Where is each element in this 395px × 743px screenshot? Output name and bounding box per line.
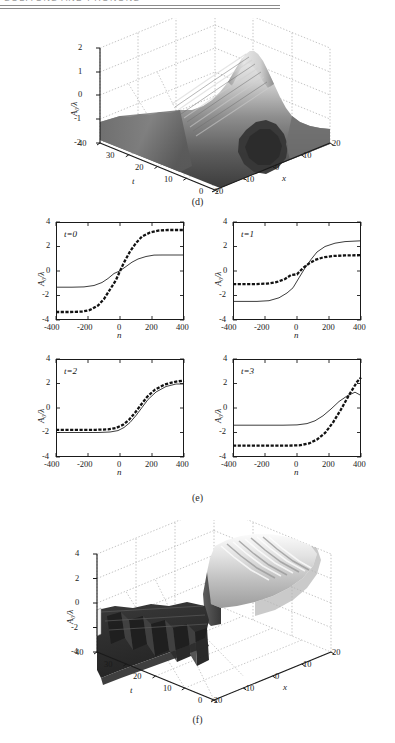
subplot-e-t1-thin-curve xyxy=(233,241,361,302)
subplot-e-t0-ytick-0: 0 xyxy=(46,265,50,275)
subplot-e-t0-xtick-m200: -200 xyxy=(77,322,93,332)
subplot-e-t3-ytick-m2: -2 xyxy=(219,426,226,436)
subplot-e-t2-ytick-m2: -2 xyxy=(42,426,49,436)
subplot-e-t2-ytick-2: 2 xyxy=(46,377,50,387)
subplot-e-t0-curves xyxy=(28,218,188,338)
panel-d-xtick-m10: -10 xyxy=(243,174,254,184)
subplot-e-t1-ytick-0: 0 xyxy=(223,265,227,275)
subplot-e-t2-ytick-0: 0 xyxy=(46,402,50,412)
panel-d-ttick-20: 20 xyxy=(135,162,144,172)
running-head: SOLITONS AND PHONONS xyxy=(0,0,395,9)
panel-f-ttick-20: 20 xyxy=(133,671,142,681)
subplot-e-t3-ylabel: A₀/λ xyxy=(213,409,223,423)
subplot-e-t3-xtick-m400: -400 xyxy=(221,459,237,469)
subplot-e-t0-xtick-m400: -400 xyxy=(44,322,60,332)
panel-d-z-axis-label: A₀/λ xyxy=(69,102,79,116)
panel-f-ttick-30: 30 xyxy=(104,659,113,669)
panel-d-xtick-0: 0 xyxy=(275,162,279,172)
subplot-e-t3: t=3 4 2 0 -2 -4 A₀/λ -400 -200 0 200 400… xyxy=(205,355,365,475)
subplot-e-t2: t=2 4 2 0 -2 -4 A₀/λ -400 -200 0 200 400… xyxy=(28,355,188,475)
panel-d-xtick-m20: -20 xyxy=(212,186,223,196)
subplot-e-t2-xlabel: n xyxy=(117,467,122,477)
subplot-e-t0-label: t=0 xyxy=(64,229,77,239)
subplot-e-t1-xlabel: n xyxy=(294,330,299,340)
panel-f-xtick-10: 10 xyxy=(303,659,312,669)
subplot-e-t3-ytick-0: 0 xyxy=(223,402,227,412)
subplot-e-t1-ytick-m2: -2 xyxy=(219,289,226,299)
subplot-e-t0-ylabel: A₀/λ xyxy=(36,272,46,286)
subplot-e-t3-thick-curve xyxy=(233,378,361,446)
subplot-e-t0-ytick-m2: -2 xyxy=(42,289,49,299)
subplot-e-t0-xlabel: n xyxy=(117,330,122,340)
panel-d-ztick-1: 1 xyxy=(78,66,82,76)
panel-d-z-ticks xyxy=(96,48,100,143)
subplot-e-t1-ylabel: A₀/λ xyxy=(213,272,223,286)
panel-d-t-axis-label: t xyxy=(132,176,135,186)
panel-f-ttick-40: 40 xyxy=(75,647,84,657)
subplot-e-t2-xtick-400: 400 xyxy=(176,459,189,469)
subplot-e-t3-ytick-2: 2 xyxy=(223,377,227,387)
panel-f-surface xyxy=(55,520,345,715)
panel-f-xtick-m10: -10 xyxy=(243,683,254,693)
panel-e-caption: (e) xyxy=(0,492,395,503)
panel-f-z-axis-label: A₀/λ xyxy=(65,610,75,624)
subplot-e-t2-thick-curve xyxy=(56,381,184,430)
subplot-e-t1-label: t=1 xyxy=(241,229,254,239)
subplot-e-t1-xtick-m200: -200 xyxy=(254,322,270,332)
panel-d-surface xyxy=(60,18,345,198)
panel-d-xtick-10: 10 xyxy=(303,150,312,160)
subplot-e-t2-label: t=2 xyxy=(64,366,77,376)
subplot-e-t3-xtick-200: 200 xyxy=(322,459,335,469)
subplot-e-t1-ytick-2: 2 xyxy=(223,240,227,250)
subplot-e-t3-curves xyxy=(205,355,365,475)
subplot-e-t1-thick-curve xyxy=(233,255,361,284)
panel-d-caption: (d) xyxy=(0,196,395,207)
subplot-e-t2-xtick-200: 200 xyxy=(145,459,158,469)
panel-d-ttick-30: 30 xyxy=(106,150,115,160)
panel-f-ztick-0: 0 xyxy=(75,597,79,607)
subplot-e-t2-ytick-4: 4 xyxy=(46,353,50,363)
subplot-e-t3-xtick-400: 400 xyxy=(353,459,366,469)
panel-f-ztick-4: 4 xyxy=(75,548,79,558)
panel-f-x-axis-label: x xyxy=(283,682,287,692)
panel-f-xtick-m20: -20 xyxy=(211,695,222,705)
panel-f-ttick-0: 0 xyxy=(198,695,202,705)
running-head-rule-top xyxy=(0,5,280,6)
subplot-e-t0-ytick-2: 2 xyxy=(46,240,50,250)
panel-d-ztick-0: 2 xyxy=(78,42,82,52)
subplot-e-t2-ylabel: A₀/λ xyxy=(36,409,46,423)
subplot-e-t0-thin-curve xyxy=(56,255,184,287)
panel-d: 2 1 0 -1 -2 A₀/λ 40 30 20 10 0 t -20 -10… xyxy=(60,18,345,198)
subplot-e-t3-ytick-4: 4 xyxy=(223,353,227,363)
panel-d-x-axis-label: x xyxy=(282,173,286,183)
subplot-e-t2-thin-curve xyxy=(56,384,184,433)
panel-f-ztick-2: 2 xyxy=(75,573,79,583)
panel-f-t-axis-label: t xyxy=(130,685,133,695)
subplot-e-t0-ytick-4: 4 xyxy=(46,216,50,226)
panel-f-xtick-20: 20 xyxy=(332,647,341,657)
subplot-e-t3-xlabel: n xyxy=(294,467,299,477)
subplot-e-t1-xtick-400: 400 xyxy=(353,322,366,332)
panel-d-ttick-10: 10 xyxy=(164,174,173,184)
panel-d-ttick-40: 40 xyxy=(78,138,87,148)
running-head-text: SOLITONS AND PHONONS xyxy=(4,0,140,3)
running-head-rule-bottom xyxy=(0,8,280,9)
subplot-e-t2-curves xyxy=(28,355,188,475)
subplot-e-t0: t=0 4 2 0 -2 -4 A₀/λ -400 -200 0 200 400… xyxy=(28,218,188,338)
panel-d-ttick-0: 0 xyxy=(199,186,203,196)
subplot-e-t1: t=1 4 2 0 -2 -4 A₀/λ -400 -200 0 200 400… xyxy=(205,218,365,338)
subplot-e-t2-xtick-m200: -200 xyxy=(77,459,93,469)
subplot-e-t0-xtick-400: 400 xyxy=(176,322,189,332)
panel-f-caption: (f) xyxy=(0,714,395,725)
figure-page: SOLITONS AND PHONONS xyxy=(0,0,395,743)
subplot-e-t3-xtick-m200: -200 xyxy=(254,459,270,469)
subplot-e-t1-curves xyxy=(205,218,365,338)
panel-d-ztick-2: 0 xyxy=(78,89,82,99)
subplot-e-t2-xtick-m400: -400 xyxy=(44,459,60,469)
panel-d-xtick-20: 20 xyxy=(332,138,341,148)
subplot-e-t0-xtick-200: 200 xyxy=(145,322,158,332)
panel-f-xtick-0: 0 xyxy=(275,671,279,681)
subplot-e-t1-xtick-200: 200 xyxy=(322,322,335,332)
subplot-e-t1-ytick-4: 4 xyxy=(223,216,227,226)
panel-f: 4 2 0 -2 -4 A₀/λ 40 30 20 10 0 t -20 -10… xyxy=(55,520,345,715)
